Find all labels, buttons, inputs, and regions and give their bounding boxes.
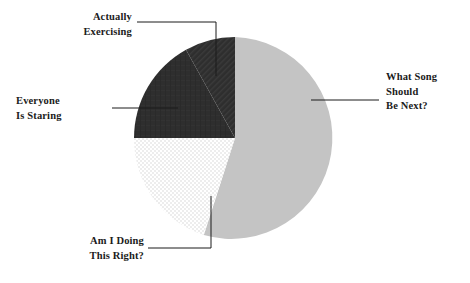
pie-label-everyone-is-staring: Everyone Is Staring	[16, 94, 106, 123]
pie-label-am-i-doing-this-right-line2: This Right?	[58, 249, 144, 264]
pie-chart: Actually Exercising Everyone Is Staring …	[0, 0, 470, 283]
pie-label-actually-exercising-line2: Exercising	[54, 25, 132, 40]
pie-label-am-i-doing-this-right: Am I Doing This Right?	[58, 234, 144, 263]
pie-label-what-song-should-be-next-line2: Should	[386, 85, 466, 100]
pie-label-am-i-doing-this-right-line1: Am I Doing	[58, 234, 144, 249]
pie-label-what-song-should-be-next: What Song Should Be Next?	[386, 70, 466, 114]
pie-label-what-song-should-be-next-line3: Be Next?	[386, 99, 466, 114]
pie-label-what-song-should-be-next-line1: What Song	[386, 70, 466, 85]
pie-label-everyone-is-staring-line1: Everyone	[16, 94, 106, 109]
pie-label-actually-exercising-line1: Actually	[54, 10, 132, 25]
pie-label-actually-exercising: Actually Exercising	[54, 10, 132, 39]
pie-label-everyone-is-staring-line2: Is Staring	[16, 109, 106, 124]
